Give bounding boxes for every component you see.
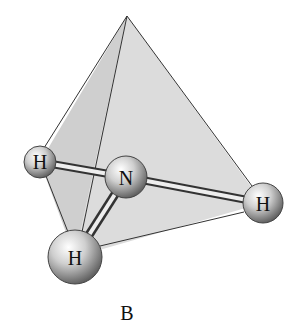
atom-h-left: H (24, 146, 56, 178)
atom-h-bottom: H (48, 230, 102, 284)
atom-label: N (119, 167, 133, 189)
atom-label: H (256, 193, 270, 215)
atom-label: H (33, 151, 47, 173)
ammonia-tetrahedron-diagram: H N H H B (0, 0, 305, 324)
atom-h-right: H (243, 183, 283, 223)
tetrahedron (40, 16, 263, 257)
figure-caption: B (120, 302, 133, 324)
atom-label: H (68, 247, 82, 269)
atom-n-center: N (105, 156, 147, 198)
